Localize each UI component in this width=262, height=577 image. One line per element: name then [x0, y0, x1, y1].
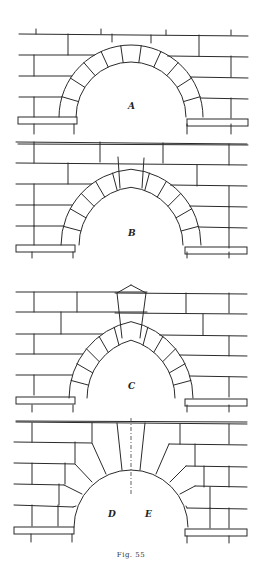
course-line [179, 355, 247, 356]
voussoir-joint [176, 209, 192, 218]
voussoir-joint [180, 486, 195, 494]
panel-b [16, 142, 247, 258]
voussoir-joint [140, 423, 145, 470]
course-line [19, 34, 248, 36]
voussoir-joint [84, 63, 95, 76]
panel-c [16, 285, 247, 422]
voussoir-joint [64, 485, 82, 494]
course-line [190, 77, 248, 78]
voussoir-joint [86, 349, 99, 362]
panel-a [18, 29, 248, 145]
impost-stone [187, 119, 248, 126]
course-line [14, 484, 64, 485]
label-d: D [107, 509, 116, 519]
voussoir-joint [117, 293, 122, 338]
voussoir-joint [121, 46, 123, 63]
course-line [200, 98, 248, 99]
course-line [195, 486, 247, 487]
voussoir-joint [181, 226, 198, 231]
course-line [14, 505, 73, 507]
panel-de [14, 418, 247, 543]
course-line [187, 508, 247, 509]
course-line [199, 227, 247, 228]
voussoir-joint [96, 181, 105, 197]
voussoir-joint [177, 78, 191, 87]
course-line [14, 463, 75, 464]
course-line [169, 444, 247, 445]
voussoir-joint [142, 158, 144, 188]
label-a: A [127, 101, 135, 111]
impost-stone [14, 527, 74, 534]
voussoir-joint [143, 327, 148, 345]
voussoir-joint [63, 226, 80, 231]
course-line [115, 293, 247, 294]
voussoir-joint [156, 444, 169, 474]
voussoir-joint [140, 293, 146, 338]
voussoir-joint [73, 506, 76, 507]
impost-stone [185, 399, 247, 406]
impost-stone [16, 397, 75, 404]
impost-stone [16, 245, 75, 252]
voussoir-joint [168, 193, 181, 206]
voussoir-joint [81, 193, 94, 206]
course-line [115, 313, 247, 314]
voussoir-joint [101, 52, 108, 67]
voussoir-joint [145, 173, 150, 190]
voussoir-joint [186, 506, 187, 508]
voussoir-joint [174, 380, 191, 385]
arch-figure: A B C D E Fig. 55 [0, 0, 262, 577]
voussoir-joint [117, 423, 122, 470]
voussoir-joint [70, 78, 84, 87]
label-c: C [128, 381, 136, 391]
course-line [170, 185, 247, 186]
voussoir-joint [170, 466, 186, 482]
voussoir-joint [157, 181, 166, 197]
voussoir-joint [92, 443, 106, 474]
voussoir-joint [169, 364, 185, 373]
voussoir-joint [163, 349, 176, 362]
voussoir-joint [154, 336, 163, 352]
course-line [190, 206, 247, 207]
voussoir-joint [167, 63, 178, 76]
voussoir-joint [139, 46, 141, 63]
voussoir-joint [113, 173, 118, 190]
course-line [190, 376, 247, 377]
voussoir-joint [99, 336, 108, 352]
impost-stone [18, 117, 77, 124]
voussoir-joint [114, 327, 119, 345]
voussoir-joint [77, 364, 93, 373]
label-e: E [144, 509, 152, 519]
course-line [168, 56, 248, 57]
voussoir-joint [75, 464, 92, 482]
voussoir-joint [70, 209, 86, 218]
label-b: B [127, 228, 136, 238]
voussoir-joint [71, 380, 88, 385]
voussoir-joint [62, 97, 78, 102]
voussoir-joint [184, 97, 200, 102]
impost-stone [185, 247, 247, 254]
voussoir-joint [118, 157, 120, 188]
impost-stone [185, 529, 247, 536]
figure-caption: Fig. 55 [117, 551, 145, 559]
course-line [14, 442, 92, 443]
course-line [16, 163, 247, 165]
voussoir-joint [154, 52, 161, 67]
